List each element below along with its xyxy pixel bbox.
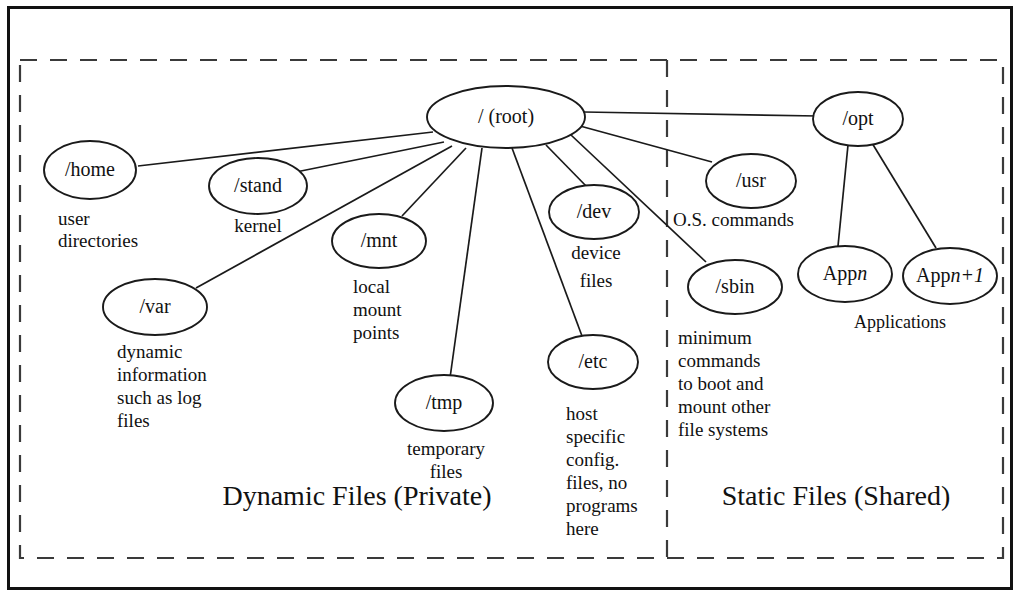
node-app-n-prefix: App bbox=[823, 262, 857, 285]
node-tmp[interactable]: /tmp temporary files bbox=[395, 375, 493, 482]
node-var-desc-line-1: information bbox=[117, 364, 207, 385]
edge-root-usr bbox=[580, 126, 712, 162]
node-sbin-desc-line-3: mount other bbox=[678, 396, 771, 417]
node-etc-desc-line-5: here bbox=[566, 518, 599, 539]
zone-label-static: Static Files (Shared) bbox=[722, 480, 951, 511]
edge-root-stand bbox=[296, 142, 444, 172]
node-mnt-desc-line-2: points bbox=[353, 322, 399, 343]
node-etc-desc-line-3: files, no bbox=[566, 472, 627, 493]
node-stand-desc-line-0: kernel bbox=[234, 215, 281, 236]
node-dev-desc-line-1: files bbox=[580, 270, 613, 291]
node-stand[interactable]: /stand kernel bbox=[209, 158, 307, 236]
node-sbin[interactable]: /sbin minimum commands to boot and mount… bbox=[678, 260, 782, 440]
node-root-label: / (root) bbox=[478, 105, 534, 128]
node-mnt-desc-line-1: mount bbox=[353, 299, 402, 320]
node-etc-label: /etc bbox=[579, 350, 608, 372]
node-app-n-plus-1-label: Appn+1 bbox=[916, 264, 984, 287]
node-var[interactable]: /var dynamic information such as log fil… bbox=[103, 279, 207, 431]
node-usr[interactable]: /usr O.S. commands bbox=[673, 154, 796, 230]
node-etc-desc-line-0: host bbox=[566, 403, 598, 424]
node-etc-desc-line-1: specific bbox=[566, 426, 625, 447]
edge-group bbox=[138, 112, 936, 378]
node-home-label: /home bbox=[65, 158, 115, 180]
node-dev[interactable]: /dev device files bbox=[549, 185, 639, 291]
node-home[interactable]: /home user directories bbox=[44, 141, 138, 251]
node-var-desc-line-3: files bbox=[117, 410, 150, 431]
edge-root-opt bbox=[584, 112, 818, 116]
node-opt[interactable]: /opt bbox=[813, 92, 903, 146]
node-app-n-label: Appn bbox=[823, 262, 867, 285]
node-root[interactable]: / (root) bbox=[427, 86, 585, 148]
node-app-n-plus-1[interactable]: Appn+1 bbox=[903, 248, 997, 304]
node-tmp-desc-line-1: files bbox=[430, 461, 463, 482]
node-etc-desc-line-4: programs bbox=[566, 495, 638, 516]
node-sbin-desc-line-4: file systems bbox=[678, 419, 768, 440]
node-dev-label: /dev bbox=[577, 200, 611, 222]
edge-root-tmp bbox=[450, 148, 482, 378]
edge-root-dev bbox=[546, 145, 588, 188]
node-dev-desc-line-0: device bbox=[571, 242, 621, 263]
node-stand-label: /stand bbox=[234, 174, 282, 196]
edge-opt-appn1 bbox=[872, 143, 936, 248]
node-app-n-index: n bbox=[857, 262, 867, 284]
node-mnt[interactable]: /mnt local mount points bbox=[332, 214, 426, 343]
node-mnt-label: /mnt bbox=[361, 229, 398, 251]
node-tmp-label: /tmp bbox=[426, 391, 463, 414]
node-sbin-desc-line-1: commands bbox=[678, 350, 760, 371]
zone-label-dynamic: Dynamic Files (Private) bbox=[222, 480, 491, 511]
node-sbin-desc-line-2: to boot and bbox=[678, 373, 764, 394]
node-sbin-desc-line-0: minimum bbox=[678, 327, 752, 348]
node-etc-desc-line-2: config. bbox=[566, 449, 619, 470]
node-app-n-plus-1-prefix: App bbox=[916, 264, 950, 287]
node-tmp-desc-line-0: temporary bbox=[407, 438, 486, 459]
node-sbin-label: /sbin bbox=[716, 275, 755, 297]
node-var-label: /var bbox=[139, 295, 170, 317]
node-opt-label: /opt bbox=[842, 107, 874, 130]
node-app-n-plus-1-index: n+1 bbox=[950, 264, 984, 286]
node-mnt-desc-line-0: local bbox=[353, 276, 390, 297]
node-var-desc-line-2: such as log bbox=[117, 387, 202, 408]
node-home-desc-line-0: user bbox=[58, 208, 90, 229]
edge-root-home bbox=[138, 132, 433, 166]
edge-opt-appn bbox=[838, 145, 848, 246]
filesystem-hierarchy-diagram: / (root) /home user directories /stand k… bbox=[0, 0, 1021, 601]
node-etc[interactable]: /etc host specific config. files, no pro… bbox=[548, 335, 638, 539]
diagram-canvas: / (root) /home user directories /stand k… bbox=[0, 0, 1021, 601]
applications-group-label: Applications bbox=[854, 312, 946, 332]
node-var-desc-line-0: dynamic bbox=[117, 341, 182, 362]
node-usr-desc-line-0: O.S. commands bbox=[673, 209, 794, 230]
node-home-desc-line-1: directories bbox=[58, 230, 138, 251]
node-app-n[interactable]: Appn bbox=[798, 246, 892, 302]
edge-root-mnt bbox=[402, 148, 466, 216]
node-usr-label: /usr bbox=[736, 169, 766, 191]
